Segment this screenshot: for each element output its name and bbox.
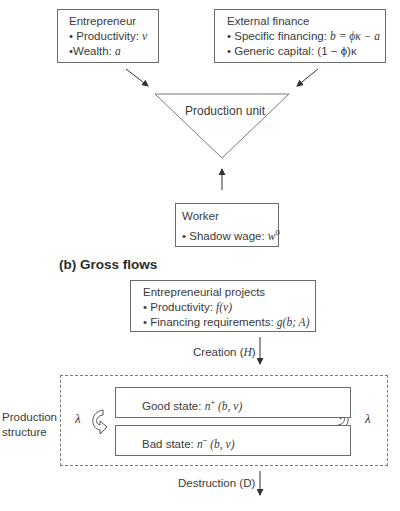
arrow-finance-to-unit xyxy=(297,69,318,86)
state-label: Good state: xyxy=(142,400,205,412)
item-symbol: g(b; A) xyxy=(277,316,310,328)
generic-capital: • Generic capital: (1 − ϕ)κ xyxy=(227,44,357,59)
arrow-entrepreneur-to-unit xyxy=(126,69,148,86)
bad-state-text: Bad state: n− (b, v) xyxy=(142,433,235,452)
worker-box: Worker • Shadow wage: w0 xyxy=(175,203,279,247)
item-label: • Financing requirements: xyxy=(143,316,277,328)
entrepreneurial-projects-box: Entrepreneurial projects • Productivity:… xyxy=(130,280,316,332)
creation-symbol: H xyxy=(244,346,252,358)
item-label: • Shadow wage: xyxy=(182,230,268,242)
entrepreneur-title: Entrepreneur xyxy=(69,14,136,29)
creation-text: Creation ( xyxy=(193,346,244,358)
production-structure-label-2: structure xyxy=(2,425,47,440)
good-state-text: Good state: n+ (b, v) xyxy=(142,395,242,414)
specific-financing: • Specific financing: b = ϕκ − a xyxy=(227,29,380,44)
lambda-left: λ xyxy=(75,411,81,427)
destruction-label: Destruction (D) xyxy=(178,476,255,491)
good-state-box: Good state: n+ (b, v) xyxy=(115,387,351,418)
bad-state-box: Bad state: n− (b, v) xyxy=(115,425,351,456)
item-symbol: a xyxy=(115,45,121,57)
creation-label: Creation (H) xyxy=(193,345,256,360)
item-label: •Wealth: xyxy=(69,45,115,57)
lambda-right: λ xyxy=(365,411,371,427)
item-symbol: f(v) xyxy=(216,301,232,313)
item-label: • Productivity: xyxy=(69,30,142,42)
state-label: Bad state: xyxy=(142,438,197,450)
state-args: (b, v) xyxy=(215,400,242,412)
item-symbol: b = ϕκ − a xyxy=(330,30,380,42)
projects-productivity: • Productivity: f(v) xyxy=(143,300,232,315)
creation-close: ) xyxy=(252,346,256,358)
projects-title: Entrepreneurial projects xyxy=(143,285,265,300)
entrepreneur-box: Entrepreneur • Productivity: v •Wealth: … xyxy=(57,9,159,63)
item-symbol: w xyxy=(268,230,276,242)
item-label: • Specific financing: xyxy=(227,30,330,42)
entrepreneur-wealth: •Wealth: a xyxy=(69,44,121,59)
item-symbol: v xyxy=(142,30,147,42)
production-structure-label-1: Production xyxy=(2,410,57,425)
production-unit-label: Production unit xyxy=(185,104,265,119)
item-label: • Generic capital: xyxy=(227,45,317,57)
worker-title: Worker xyxy=(182,209,219,224)
panel-b-title: (b) Gross flows xyxy=(59,257,157,272)
item-superscript: 0 xyxy=(276,228,280,237)
projects-financing: • Financing requirements: g(b; A) xyxy=(143,315,309,330)
external-finance-box: External finance • Specific financing: b… xyxy=(214,9,386,63)
external-finance-title: External finance xyxy=(227,14,309,29)
state-args: (b, v) xyxy=(207,438,234,450)
shadow-wage: • Shadow wage: w0 xyxy=(182,225,280,244)
item-symbol: (1 − ϕ)κ xyxy=(317,45,356,57)
item-label: • Productivity: xyxy=(143,301,216,313)
entrepreneur-productivity: • Productivity: v xyxy=(69,29,147,44)
